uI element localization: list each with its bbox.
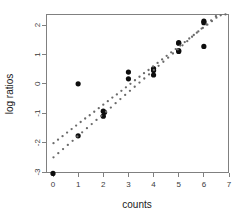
fitted-point xyxy=(80,121,82,123)
fitted-point xyxy=(186,40,188,42)
x-tick-label: 7 xyxy=(227,180,232,189)
fitted-point xyxy=(86,127,88,129)
fitted-point xyxy=(134,79,136,81)
fitted-point xyxy=(177,48,179,50)
data-point xyxy=(201,44,206,49)
fitted-point xyxy=(129,83,131,85)
data-point xyxy=(126,69,131,74)
fitted-point xyxy=(148,73,150,75)
fitted-point xyxy=(188,37,190,39)
x-tick-label: 2 xyxy=(101,180,106,189)
fitted-point xyxy=(81,131,83,133)
y-tick-label: -1 xyxy=(33,109,42,117)
y-axis-title: log ratios xyxy=(4,74,15,115)
fitted-point xyxy=(129,90,131,92)
fitted-point xyxy=(62,148,64,150)
fitted-point xyxy=(153,69,155,71)
fitted-point xyxy=(75,124,77,126)
fitted-point xyxy=(125,86,127,88)
fitted-point xyxy=(156,62,158,64)
fitted-point xyxy=(215,15,217,17)
fitted-point xyxy=(91,123,93,125)
fitted-point xyxy=(143,77,145,79)
fitted-point xyxy=(205,23,207,25)
y-tick-label: 1 xyxy=(33,52,42,57)
y-tick-label: -2 xyxy=(33,138,42,146)
fitted-point xyxy=(52,156,54,158)
fitted-point xyxy=(57,139,59,141)
fitted-point xyxy=(98,107,100,109)
fitted-point xyxy=(138,76,140,78)
fitted-point xyxy=(134,86,136,88)
y-tick-label: 2 xyxy=(33,22,42,27)
fitted-point xyxy=(107,100,109,102)
fitted-point xyxy=(70,128,72,130)
y-tick-label: -3 xyxy=(33,168,42,176)
fitted-point xyxy=(84,117,86,119)
x-axis-title: counts xyxy=(122,199,151,210)
data-point xyxy=(126,76,131,81)
fitted-point xyxy=(157,65,159,67)
fitted-point xyxy=(193,34,195,36)
fitted-point xyxy=(95,119,97,121)
fitted-point xyxy=(167,56,169,58)
fitted-point xyxy=(52,142,54,144)
fitted-point xyxy=(105,111,107,113)
fitted-point xyxy=(100,115,102,117)
fitted-point xyxy=(67,144,69,146)
fitted-point xyxy=(119,98,121,100)
plot-canvas: 210-1-2-3 01234567 counts log ratios xyxy=(0,0,247,219)
fitted-point xyxy=(191,36,193,38)
data-point xyxy=(151,72,156,77)
fitted-point xyxy=(61,135,63,137)
fitted-point xyxy=(138,81,140,83)
fitted-point xyxy=(76,135,78,137)
fitted-point xyxy=(172,52,174,54)
fitted-point xyxy=(220,14,222,16)
fitted-point xyxy=(116,93,118,95)
fitted-point xyxy=(124,94,126,96)
y-tick-label: 0 xyxy=(33,81,42,86)
plot-background xyxy=(0,0,247,219)
fitted-point xyxy=(110,106,112,108)
x-tick-label: 6 xyxy=(202,180,207,189)
fitted-point xyxy=(152,65,154,67)
fitted-point xyxy=(143,72,145,74)
fitted-point xyxy=(166,55,168,57)
fitted-point xyxy=(224,13,226,15)
x-tick-label: 1 xyxy=(76,180,81,189)
data-point xyxy=(50,171,55,176)
fitted-point xyxy=(102,104,104,106)
x-tick-label: 4 xyxy=(151,180,156,189)
x-tick-label: 3 xyxy=(126,180,131,189)
fitted-point xyxy=(93,111,95,113)
fitted-point xyxy=(161,58,163,60)
fitted-point xyxy=(184,41,186,43)
fitted-point xyxy=(200,27,202,29)
fitted-point xyxy=(179,44,181,46)
fitted-point xyxy=(162,61,164,63)
data-point xyxy=(76,81,81,86)
fitted-point xyxy=(66,131,68,133)
x-tick-label: 5 xyxy=(176,180,181,189)
fitted-point xyxy=(111,96,113,98)
fitted-point xyxy=(175,48,177,50)
scatter-plot-figure: 210-1-2-3 01234567 counts log ratios xyxy=(0,0,247,219)
fitted-point xyxy=(120,90,122,92)
fitted-point xyxy=(181,44,183,46)
fitted-point xyxy=(210,19,212,21)
fitted-point xyxy=(196,31,198,33)
fitted-point xyxy=(114,102,116,104)
x-tick-label: 0 xyxy=(51,180,56,189)
fitted-point xyxy=(71,140,73,142)
fitted-point xyxy=(89,114,91,116)
fitted-point xyxy=(147,69,149,71)
fitted-point xyxy=(57,152,59,154)
